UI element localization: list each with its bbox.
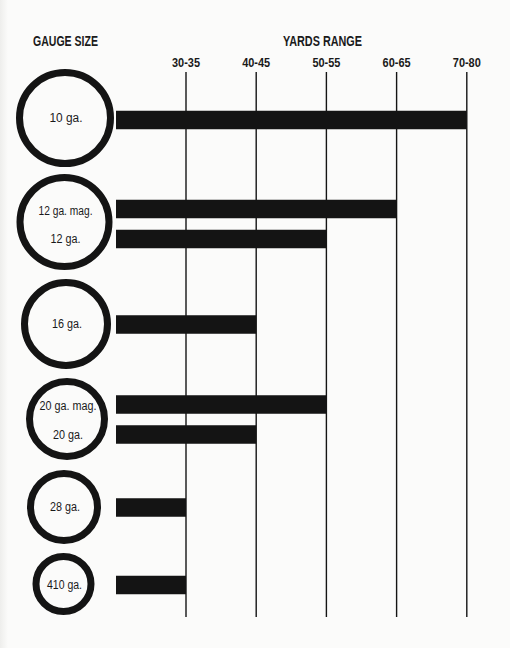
x-tick-label: 30-35 — [172, 56, 200, 70]
gauge-label: 410 ga. — [47, 578, 82, 592]
bar-410-ga — [116, 576, 186, 595]
x-tick-label: 40-45 — [242, 56, 270, 70]
chart-canvas: GAUGE SIZE YARDS RANGE 30-3540-4550-5560… — [0, 0, 510, 648]
gauge-group-28-ga: 28 ga. — [31, 474, 98, 541]
gauge-range-chart: GAUGE SIZE YARDS RANGE 30-3540-4550-5560… — [0, 0, 510, 648]
x-tick-label: 60-65 — [383, 56, 411, 70]
gauge-group-20-ga: 20 ga. mag.20 ga. — [30, 382, 105, 457]
gauge-label: 16 ga. — [52, 317, 82, 331]
bar-16-ga — [116, 315, 256, 334]
gauge-group-16-ga: 16 ga. — [25, 283, 108, 366]
bar-20-ga-mag — [116, 395, 326, 414]
gauge-circle — [20, 178, 109, 267]
gridlines — [186, 72, 467, 617]
gauge-label: 12 ga. — [51, 232, 81, 246]
gauge-group-12-ga: 12 ga. mag.12 ga. — [20, 178, 109, 267]
x-tick-label: 70-80 — [453, 56, 481, 70]
x-axis-title: YARDS RANGE — [283, 33, 362, 49]
gauge-label: 28 ga. — [50, 500, 80, 514]
bar-12-ga-mag — [116, 200, 397, 219]
x-tick-labels: 30-3540-4550-5560-6570-80 — [172, 56, 481, 70]
gauge-circles: 10 ga.12 ga. mag.12 ga.16 ga.20 ga. mag.… — [20, 73, 111, 612]
bar-28-ga — [116, 498, 186, 517]
x-tick-label: 50-55 — [312, 56, 340, 70]
gauge-label: 20 ga. — [53, 428, 83, 442]
bar-20-ga — [116, 425, 256, 444]
gauge-label: 10 ga. — [50, 111, 83, 125]
bars — [116, 111, 467, 595]
y-axis-title: GAUGE SIZE — [33, 33, 98, 49]
gauge-group-410-ga: 410 ga. — [36, 557, 91, 612]
bar-10-ga — [116, 111, 467, 130]
gauge-label: 20 ga. mag. — [40, 399, 97, 413]
gauge-circle — [30, 382, 105, 457]
gauge-label: 12 ga. mag. — [39, 204, 93, 218]
gauge-group-10-ga: 10 ga. — [20, 73, 111, 164]
bar-12-ga — [116, 230, 326, 249]
